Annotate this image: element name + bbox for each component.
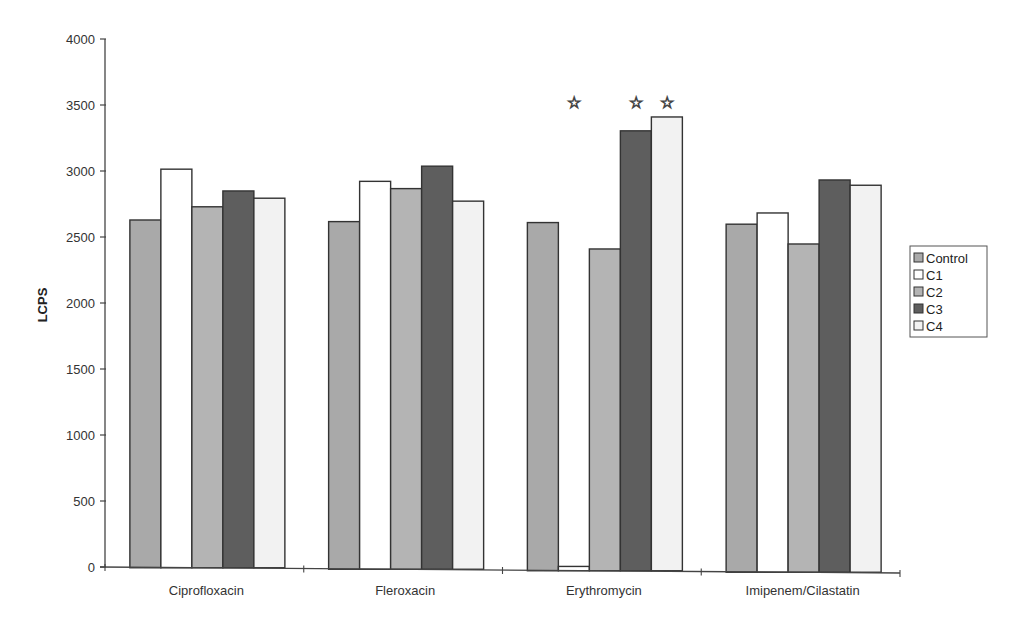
y-tick-label: 1500: [66, 362, 95, 377]
legend-swatch: [914, 321, 923, 330]
y-tick-label: 3500: [66, 98, 95, 113]
y-tick-label: 500: [73, 494, 95, 509]
legend-swatch: [914, 253, 923, 262]
bar-c4-erythromycin: [651, 117, 682, 571]
legend-label: Control: [926, 251, 968, 266]
bar-c1-ciprofloxacin: [161, 169, 192, 568]
legend-swatch: [914, 304, 923, 313]
legend-label: C4: [926, 319, 943, 334]
y-tick-label: 3000: [66, 164, 95, 179]
bar-control-imipenemcilastatin: [726, 224, 757, 572]
legend-swatch: [914, 287, 923, 296]
y-tick-label: 2500: [66, 230, 95, 245]
bar-c2-imipenemcilastatin: [788, 244, 819, 572]
y-axis: 05001000150020002500300035004000: [66, 32, 106, 575]
bar-c4-fleroxacin: [453, 201, 484, 569]
legend: ControlC1C2C3C4: [910, 246, 987, 337]
bar-chart: 05001000150020002500300035004000 Ciprofl…: [0, 0, 1015, 622]
star-icon: ☆: [567, 94, 581, 111]
x-category-label: Fleroxacin: [375, 583, 435, 598]
legend-swatch: [914, 270, 923, 279]
y-tick-label: 1000: [66, 428, 95, 443]
bar-control-ciprofloxacin: [130, 220, 161, 568]
significance-markers: ☆☆☆: [567, 94, 674, 111]
bar-c3-imipenemcilastatin: [819, 180, 850, 572]
bars: [130, 117, 881, 572]
bar-c3-erythromycin: [620, 131, 651, 571]
y-axis-label: LCPS: [35, 287, 50, 322]
star-icon: ☆: [629, 94, 643, 111]
bar-control-fleroxacin: [329, 222, 360, 570]
bar-c4-ciprofloxacin: [254, 198, 285, 568]
x-category-label: Imipenem/Cilastatin: [746, 583, 860, 598]
x-category-label: Erythromycin: [566, 583, 642, 598]
bar-c2-ciprofloxacin: [192, 207, 223, 568]
star-icon: ☆: [660, 94, 674, 111]
bar-c4-imipenemcilastatin: [850, 185, 881, 572]
bar-c3-ciprofloxacin: [223, 191, 254, 568]
legend-label: C2: [926, 285, 943, 300]
y-tick-label: 2000: [66, 296, 95, 311]
legend-label: C3: [926, 302, 943, 317]
x-category-label: Ciprofloxacin: [169, 583, 244, 598]
legend-label: C1: [926, 268, 943, 283]
y-tick-label: 0: [88, 560, 95, 575]
bar-c2-fleroxacin: [391, 189, 422, 570]
bar-c1-imipenemcilastatin: [757, 213, 788, 572]
bar-c3-fleroxacin: [422, 166, 453, 569]
bar-control-erythromycin: [527, 223, 558, 571]
bar-c1-fleroxacin: [360, 181, 391, 569]
y-tick-label: 4000: [66, 32, 95, 47]
bar-c2-erythromycin: [589, 249, 620, 571]
